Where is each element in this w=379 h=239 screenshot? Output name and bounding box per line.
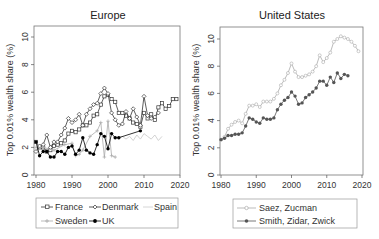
united-states-title: United States <box>259 9 326 21</box>
x-tick-label: 1990 <box>63 180 82 190</box>
y-tick-label: 10 <box>20 32 30 42</box>
europe-x-ticks: 19801990200020102020 <box>27 175 190 190</box>
united-states-plot-frame <box>220 27 363 175</box>
united-states-series <box>219 35 360 142</box>
svg-text:Smith, Zidar, Zwick: Smith, Zidar, Zwick <box>259 216 336 226</box>
united-states-y-axis-label: Top 0.01% wealth share (%) <box>191 44 201 157</box>
figure: Europe Top 0.01% wealth share (%) 024681… <box>0 0 379 239</box>
y-tick-label: 6 <box>206 91 216 96</box>
x-tick-label: 2000 <box>99 180 118 190</box>
united-states-y-ticks: 0246810 <box>206 34 220 177</box>
united-states-x-ticks: 19801990200020102020 <box>212 175 372 190</box>
y-tick-label: 4 <box>20 117 30 122</box>
x-tick-label: 2020 <box>171 180 190 190</box>
y-tick-label: 2 <box>206 145 216 150</box>
y-tick-label: 10 <box>206 34 216 44</box>
x-tick-label: 1990 <box>247 180 266 190</box>
europe-y-ticks: 0246810 <box>20 32 34 177</box>
open-circle-marker-icon <box>245 206 248 209</box>
filled-circle-marker-icon <box>245 219 249 223</box>
filled-circle-marker-icon <box>93 219 97 223</box>
square-marker-icon <box>46 205 50 209</box>
y-tick-label: 2 <box>20 145 30 150</box>
europe-y-axis-label: Top 0.01% wealth share (%) <box>5 44 15 157</box>
x-tick-label: 2010 <box>317 180 336 190</box>
svg-text:UK: UK <box>102 216 115 226</box>
x-tick-label: 2000 <box>282 180 301 190</box>
series-spain <box>115 134 162 141</box>
series-france <box>34 93 178 153</box>
y-tick-label: 0 <box>206 172 216 177</box>
europe-title: Europe <box>90 9 125 21</box>
europe-series <box>34 86 178 159</box>
svg-text:Denmark: Denmark <box>102 202 139 212</box>
series-saez-zucman <box>220 35 360 141</box>
y-tick-label: 6 <box>20 90 30 95</box>
y-tick-label: 8 <box>20 62 30 67</box>
united-states-panel: United States Top 0.01% wealth share (%)… <box>191 9 372 228</box>
x-tick-label: 2020 <box>353 180 372 190</box>
series-uk <box>34 129 142 159</box>
svg-text:France: France <box>55 202 83 212</box>
series-smith-zidar-zwick <box>219 71 349 141</box>
x-tick-label: 1980 <box>27 180 46 190</box>
europe-panel: Europe Top 0.01% wealth share (%) 024681… <box>5 9 190 228</box>
y-tick-label: 0 <box>20 172 30 177</box>
x-tick-label: 1980 <box>212 180 231 190</box>
y-tick-label: 4 <box>206 118 216 123</box>
europe-plot-frame <box>34 26 180 175</box>
svg-text:Sweden: Sweden <box>55 216 88 226</box>
x-tick-label: 2010 <box>135 180 154 190</box>
y-tick-label: 8 <box>206 64 216 69</box>
svg-text:Spain: Spain <box>154 202 177 212</box>
svg-text:Saez, Zucman: Saez, Zucman <box>259 203 317 213</box>
